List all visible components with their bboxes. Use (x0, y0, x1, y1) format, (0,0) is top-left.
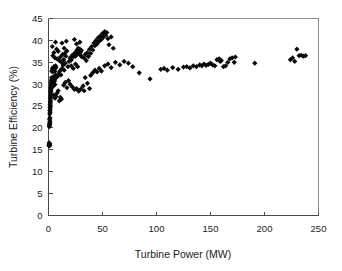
chart-figure: 051015202530354045 050100150200250 Turbi… (0, 0, 342, 271)
data-point (109, 65, 114, 70)
x-tick-label: 150 (203, 223, 219, 234)
data-point (50, 44, 55, 49)
data-point (85, 81, 90, 86)
data-point-group (46, 29, 308, 148)
data-point (87, 86, 92, 91)
data-point (170, 65, 175, 70)
y-tick-label: 25 (32, 100, 43, 111)
x-axis-title: Turbine Power (MW) (135, 248, 231, 260)
y-tick-label: 5 (37, 188, 42, 199)
y-tick-label: 45 (32, 13, 43, 24)
x-tick-label: 0 (46, 223, 51, 234)
y-axis-tick-labels: 051015202530354045 (32, 13, 43, 221)
data-point (147, 76, 152, 81)
y-tick-label: 40 (32, 35, 43, 46)
x-axis-tick-labels: 050100150200250 (46, 223, 327, 234)
data-point (53, 40, 58, 45)
data-point (72, 37, 77, 42)
y-tick-label: 20 (32, 122, 43, 133)
data-point (106, 42, 111, 47)
y-tick-label: 30 (32, 79, 43, 90)
data-point (113, 60, 118, 65)
y-tick-label: 0 (37, 210, 42, 221)
data-point (232, 60, 237, 65)
x-tick-label: 200 (257, 223, 273, 234)
data-point (294, 47, 299, 52)
data-point (111, 46, 116, 51)
x-tick-label: 100 (149, 223, 165, 234)
data-point (176, 67, 181, 72)
data-point (130, 64, 135, 69)
x-axis-ticks (49, 212, 319, 216)
y-tick-label: 15 (32, 144, 43, 155)
data-point (252, 61, 257, 66)
data-point (137, 70, 142, 75)
scatter-plot: 051015202530354045 050100150200250 Turbi… (0, 0, 342, 271)
y-tick-label: 10 (32, 166, 43, 177)
x-tick-label: 250 (311, 223, 327, 234)
y-tick-label: 35 (32, 57, 43, 68)
data-point (117, 62, 122, 67)
x-tick-label: 50 (97, 223, 108, 234)
data-point (83, 75, 88, 80)
y-axis-title: Turbine Efficiency (%) (7, 66, 19, 168)
